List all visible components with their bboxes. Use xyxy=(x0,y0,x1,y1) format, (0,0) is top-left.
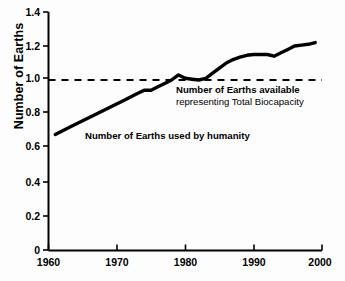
y-tick-label-1.2: 1.2 xyxy=(14,40,40,52)
y-tick-label-0.4: 0.4 xyxy=(14,176,40,188)
x-tick-label-2000: 2000 xyxy=(308,256,331,268)
y-tick-label-0.8: 0.8 xyxy=(14,106,40,118)
y-tick-label-1.4: 1.4 xyxy=(14,6,40,18)
humanity-annotation-text: Number of Earths used by humanity xyxy=(85,130,250,142)
x-tick-label-1960: 1960 xyxy=(37,256,60,268)
y-tick-label-0.6: 0.6 xyxy=(14,140,40,152)
x-tick-label-1980: 1980 xyxy=(174,256,197,268)
x-tick-label-1970: 1970 xyxy=(105,256,128,268)
chart-figure: Number of Earths 0 0.2 0.4 0.6 0.8 1.0 1… xyxy=(0,0,345,281)
y-tick-label-1.0: 1.0 xyxy=(14,72,40,84)
y-tick-label-0.2: 0.2 xyxy=(14,210,40,222)
y-tick-label-0: 0 xyxy=(18,244,40,256)
biocapacity-annotation-line2: representing Total Biocapacity xyxy=(176,96,304,108)
x-tick-label-1990: 1990 xyxy=(242,256,265,268)
biocapacity-annotation-line1: Number of Earths available xyxy=(176,84,300,96)
